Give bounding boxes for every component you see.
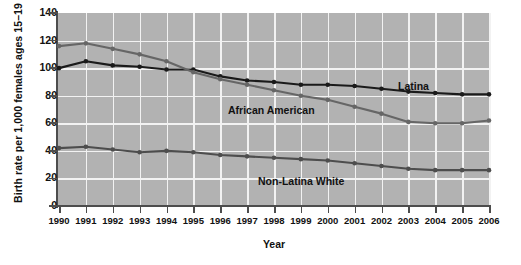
- x-tick-mark: [462, 206, 464, 213]
- y-tick-mark: [49, 95, 57, 97]
- y-tick-mark: [49, 150, 57, 152]
- y-tick-mark: [49, 122, 57, 124]
- x-tick-mark: [301, 206, 303, 213]
- series-label-latina: Latina: [398, 80, 429, 92]
- y-tick-mark: [49, 205, 57, 207]
- gridline-vertical: [355, 13, 357, 206]
- birth-rate-line-chart: Birth rate per 1,000 females ages 15–19 …: [0, 0, 521, 265]
- x-tick-mark: [328, 206, 330, 213]
- x-tick-mark: [86, 206, 88, 213]
- x-tick-mark: [220, 206, 222, 213]
- x-tick-mark: [59, 206, 61, 213]
- x-tick-mark: [247, 206, 249, 213]
- x-tick-mark: [408, 206, 410, 213]
- x-tick-mark: [274, 206, 276, 213]
- gridline-vertical: [193, 13, 195, 206]
- x-tick-mark: [167, 206, 169, 213]
- x-tick-mark: [355, 206, 357, 213]
- gridline-vertical: [435, 13, 437, 206]
- gridline-vertical: [113, 13, 115, 206]
- y-tick-mark: [49, 40, 57, 42]
- gridline-vertical: [220, 13, 222, 206]
- x-tick-mark: [435, 206, 437, 213]
- x-tick-mark: [193, 206, 195, 213]
- gridline-vertical: [140, 13, 142, 206]
- gridline-vertical: [382, 13, 384, 206]
- x-tick-label: 2006: [469, 215, 509, 226]
- y-tick-mark: [49, 12, 57, 14]
- x-tick-mark: [382, 206, 384, 213]
- gridline-vertical: [408, 13, 410, 206]
- gridline-vertical: [86, 13, 88, 206]
- series-label-non-latina-white: Non-Latina White: [258, 175, 344, 187]
- gridline-vertical: [167, 13, 169, 206]
- y-tick-mark: [49, 67, 57, 69]
- x-tick-mark: [113, 206, 115, 213]
- gridline-vertical: [489, 13, 491, 206]
- y-tick-mark: [49, 178, 57, 180]
- series-label-african-american: African American: [228, 104, 315, 116]
- x-tick-mark: [140, 206, 142, 213]
- x-axis-title: Year: [58, 238, 490, 250]
- gridline-vertical: [462, 13, 464, 206]
- x-tick-mark: [489, 206, 491, 213]
